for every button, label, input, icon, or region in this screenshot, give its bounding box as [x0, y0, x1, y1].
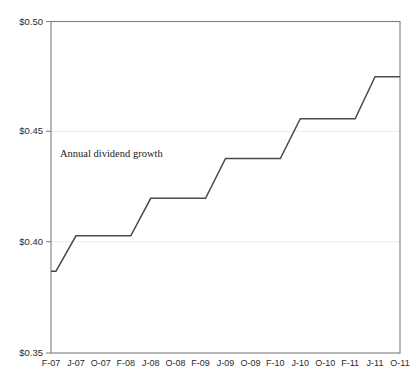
x-tick-label-j-07: J-07 [67, 358, 85, 368]
y-tick-label-0-50: $0.50 [19, 16, 43, 27]
x-tick-label-f-11: F-11 [341, 358, 359, 368]
x-tick-label-o-10: O-10 [315, 358, 335, 368]
dividend-growth-line-chart: $0.50 $0.45 $0.40 $0.35 F-07 J-07 O-07 F… [0, 0, 416, 388]
x-tick-label-f-10: F-10 [266, 358, 285, 368]
x-tick-label-j-10: J-10 [291, 358, 309, 368]
y-tick-label-0-35: $0.35 [19, 347, 43, 358]
x-tick-label-f-08: F-08 [117, 358, 136, 368]
x-tick-label-f-07: F-07 [42, 358, 61, 368]
chart-page: $0.50 $0.45 $0.40 $0.35 F-07 J-07 O-07 F… [0, 0, 416, 388]
x-tick-label-o-08: O-08 [166, 358, 186, 368]
x-tick-label-j-11: J-11 [367, 358, 384, 368]
x-tick-label-j-09: J-09 [217, 358, 235, 368]
x-tick-label-o-09: O-09 [240, 358, 260, 368]
x-tick-label-o-07: O-07 [91, 358, 111, 368]
y-tick-label-0-45: $0.45 [19, 125, 43, 136]
annotation-label: Annual dividend growth [60, 148, 163, 159]
x-tick-label-j-08: J-08 [142, 358, 160, 368]
y-tick-label-0-40: $0.40 [19, 236, 43, 247]
x-tick-label-o-11: O-11 [390, 358, 409, 368]
x-tick-label-f-09: F-09 [191, 358, 210, 368]
x-axis-labels: F-07 J-07 O-07 F-08 J-08 O-08 F-09 J-09 … [42, 358, 410, 368]
